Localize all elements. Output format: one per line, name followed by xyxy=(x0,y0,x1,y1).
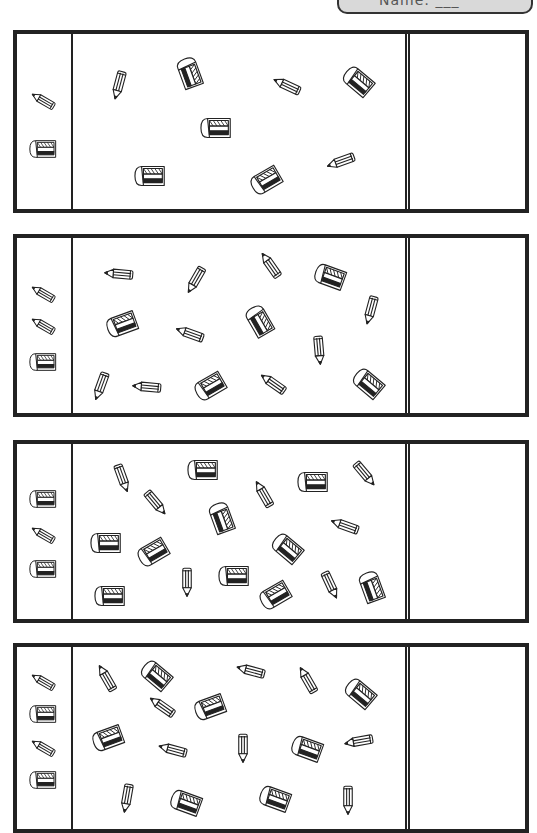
pencil-icon xyxy=(265,63,310,108)
objects-field xyxy=(73,647,403,829)
pencil-icon xyxy=(24,515,65,556)
pencil-icon xyxy=(241,472,287,518)
pencil-icon xyxy=(307,561,352,606)
pencil-icon xyxy=(24,81,65,122)
counting-panel-2 xyxy=(13,234,529,417)
eraser-icon xyxy=(264,525,312,573)
pencil-icon xyxy=(231,650,273,692)
eraser-icon xyxy=(200,111,234,145)
pencil-icon xyxy=(79,363,123,407)
eraser-icon xyxy=(29,765,59,795)
pencil-icon xyxy=(340,449,388,497)
eraser-icon xyxy=(350,566,394,610)
key-column xyxy=(17,34,73,209)
key-column xyxy=(17,647,73,829)
key-column xyxy=(17,444,73,619)
eraser-icon xyxy=(165,781,209,825)
pencil-icon xyxy=(107,777,146,816)
counting-panel-1 xyxy=(13,30,529,213)
eraser-icon xyxy=(189,685,233,729)
eraser-icon xyxy=(337,670,385,718)
eraser-icon xyxy=(254,777,298,821)
banner-text: Name: ___ xyxy=(379,0,459,8)
pencil-icon xyxy=(153,729,195,771)
eraser-icon xyxy=(286,727,330,771)
eraser-icon xyxy=(297,465,331,499)
answer-box[interactable] xyxy=(405,238,525,413)
pencil-icon xyxy=(24,728,65,769)
pencil-icon xyxy=(130,369,167,406)
objects-field xyxy=(73,34,403,209)
pencil-icon xyxy=(98,63,140,105)
counting-panel-3 xyxy=(13,440,529,623)
eraser-icon xyxy=(345,360,393,408)
pencil-icon xyxy=(250,360,297,407)
eraser-icon xyxy=(244,157,290,203)
eraser-icon xyxy=(94,579,128,613)
pencil-icon xyxy=(84,656,130,702)
objects-field xyxy=(73,444,403,619)
eraser-icon xyxy=(168,52,212,96)
eraser-icon xyxy=(188,363,234,409)
pencil-icon xyxy=(170,564,204,598)
pencil-icon xyxy=(226,730,260,764)
eraser-icon xyxy=(309,255,353,299)
eraser-icon xyxy=(187,453,221,487)
eraser-icon xyxy=(200,497,244,541)
pencil-icon xyxy=(324,504,368,548)
eraser-icon xyxy=(90,526,124,560)
answer-box[interactable] xyxy=(405,647,525,829)
eraser-icon xyxy=(335,58,383,106)
answer-box[interactable] xyxy=(405,444,525,619)
pencil-icon xyxy=(173,256,219,302)
eraser-icon xyxy=(237,299,283,345)
pencil-icon xyxy=(350,288,392,330)
pencil-icon xyxy=(301,331,338,368)
pencil-icon xyxy=(139,683,186,730)
pencil-icon xyxy=(102,256,139,293)
eraser-icon xyxy=(29,347,59,377)
pencil-icon xyxy=(100,455,144,499)
eraser-icon xyxy=(29,134,59,164)
eraser-icon xyxy=(101,302,145,346)
eraser-icon xyxy=(87,716,131,760)
objects-field xyxy=(73,238,403,413)
name-banner: Name: ___ xyxy=(337,0,533,14)
pencil-icon xyxy=(340,721,379,760)
counting-panel-4 xyxy=(13,643,529,833)
pencil-icon xyxy=(320,139,364,183)
answer-box[interactable] xyxy=(405,34,525,209)
pencil-icon xyxy=(24,306,65,347)
eraser-icon xyxy=(29,554,59,584)
pencil-icon xyxy=(331,782,365,816)
pencil-icon xyxy=(24,662,65,703)
eraser-icon xyxy=(29,484,59,514)
eraser-icon xyxy=(29,699,59,729)
eraser-icon xyxy=(218,559,252,593)
eraser-icon xyxy=(253,572,299,618)
key-column xyxy=(17,238,73,413)
pencil-icon xyxy=(169,312,213,356)
eraser-icon xyxy=(134,159,168,193)
pencil-icon xyxy=(247,242,294,289)
pencil-icon xyxy=(285,658,331,704)
